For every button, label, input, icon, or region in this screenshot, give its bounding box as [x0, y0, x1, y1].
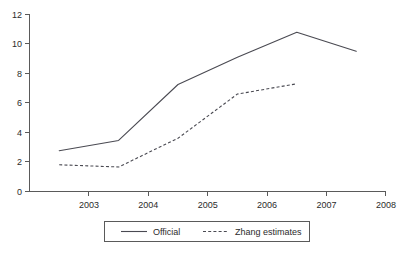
y-tick-label-8: 8 [17, 69, 22, 79]
x-tick-label-2003: 2003 [79, 200, 99, 210]
legend-label-zhang-estimates: Zhang estimates [235, 227, 302, 237]
chart-container: 12 10 8 6 4 2 0 2003 2004 2005 2006 2007… [0, 0, 410, 256]
x-tick-label-2004: 2004 [138, 200, 158, 210]
series-line-zhang-estimates [59, 84, 297, 167]
x-axis-labels: 2003 2004 2005 2006 2007 2008 [79, 200, 396, 210]
y-axis-labels: 12 10 8 6 4 2 0 [12, 10, 22, 197]
y-tick-label-2: 2 [17, 157, 22, 167]
series-line-official [59, 32, 356, 151]
y-axis-ticks [25, 15, 30, 192]
line-chart: 12 10 8 6 4 2 0 2003 2004 2005 2006 2007… [0, 0, 410, 256]
legend-label-official: Official [153, 227, 180, 237]
y-tick-label-12: 12 [12, 10, 22, 20]
x-tick-label-2005: 2005 [198, 200, 218, 210]
chart-legend: Official Zhang estimates [105, 222, 310, 242]
y-tick-label-6: 6 [17, 98, 22, 108]
x-tick-label-2006: 2006 [257, 200, 277, 210]
x-tick-label-2007: 2007 [316, 200, 336, 210]
y-tick-label-4: 4 [17, 128, 22, 138]
x-axis-ticks [89, 192, 386, 197]
x-tick-label-2008: 2008 [376, 200, 396, 210]
y-tick-label-10: 10 [12, 39, 22, 49]
y-tick-label-0: 0 [17, 187, 22, 197]
